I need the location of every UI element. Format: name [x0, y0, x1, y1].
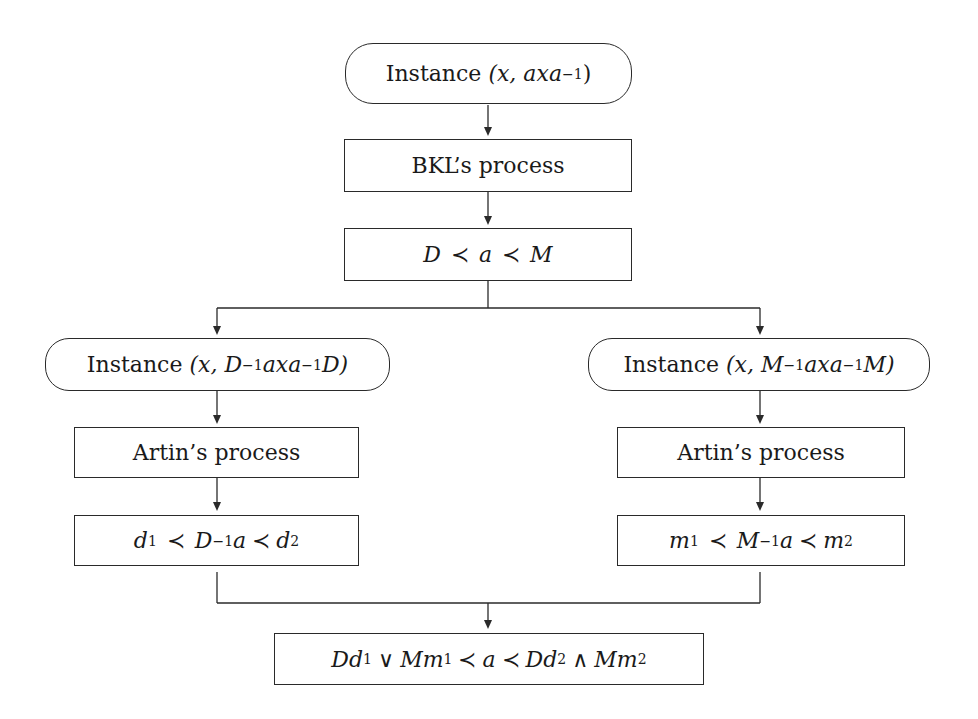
arrowhead-icon	[484, 620, 492, 629]
right-instance-open: (x, M	[726, 352, 784, 377]
arrowhead-icon	[213, 415, 221, 424]
node-bkl-result: D ≺ a ≺ M	[344, 228, 632, 281]
bkl-result-left: D	[423, 242, 441, 267]
left-result-base: D	[195, 528, 213, 553]
right-result-v2: m	[823, 528, 844, 553]
final-term1: Dd	[331, 647, 363, 672]
final-term2: Mm	[400, 647, 443, 672]
node-left-result: d1 ≺ D−1a ≺d2	[74, 515, 359, 566]
bkl-label: BKL’s process	[412, 153, 565, 178]
right-instance-mid: axa	[804, 352, 843, 377]
left-instance-open: (x, D	[189, 352, 242, 377]
arrowhead-icon	[213, 326, 221, 335]
node-right-instance: Instance (x, M−1axa−1M)	[588, 338, 930, 391]
arrowhead-icon	[756, 415, 764, 424]
precedes-symbol: ≺	[458, 647, 476, 672]
left-result-a: a	[233, 528, 246, 553]
right-result-v1: m	[669, 528, 690, 553]
left-instance-tail: D)	[322, 352, 348, 377]
node-right-artin-process: Artin’s process	[617, 427, 905, 478]
arrowhead-icon	[756, 326, 764, 335]
bkl-result-right: M	[530, 242, 553, 267]
precedes-symbol: ≺	[502, 647, 520, 672]
node-left-artin-process: Artin’s process	[74, 427, 359, 478]
node-final-result: Dd1 ∨ Mm1 ≺ a ≺ Dd2 ∧ Mm2	[274, 633, 704, 685]
join-symbol: ∨	[378, 647, 394, 672]
right-instance-prefix: Instance	[623, 352, 719, 377]
arrowhead-icon	[484, 127, 492, 136]
start-args: (x, axa	[488, 61, 562, 86]
right-artin-label: Artin’s process	[677, 440, 845, 465]
start-prefix: Instance	[386, 61, 482, 86]
bkl-result-mid: a	[479, 242, 492, 267]
arrowhead-icon	[213, 502, 221, 511]
final-a: a	[482, 647, 495, 672]
right-result-base: M	[737, 528, 760, 553]
left-artin-label: Artin’s process	[133, 440, 301, 465]
precedes-symbol: ≺	[799, 528, 817, 553]
left-instance-prefix: Instance	[87, 352, 183, 377]
precedes-symbol: ≺	[502, 242, 520, 267]
right-result-a: a	[780, 528, 793, 553]
precedes-symbol: ≺	[451, 242, 469, 267]
precedes-symbol: ≺	[167, 528, 185, 553]
precedes-symbol: ≺	[252, 528, 270, 553]
meet-symbol: ∧	[572, 647, 588, 672]
left-instance-mid: axa	[263, 352, 302, 377]
node-right-result: m1 ≺ M−1a ≺m2	[617, 515, 905, 566]
final-term4: Mm	[594, 647, 637, 672]
left-result-v2: d	[276, 528, 290, 553]
left-result-v1: d	[134, 528, 148, 553]
node-bkl-process: BKL’s process	[344, 139, 632, 192]
precedes-symbol: ≺	[709, 528, 727, 553]
right-instance-tail: M)	[863, 352, 894, 377]
arrowhead-icon	[484, 216, 492, 225]
start-close: )	[583, 61, 592, 86]
arrowhead-icon	[756, 502, 764, 511]
node-start-instance: Instance (x, axa−1)	[345, 43, 632, 104]
node-left-instance: Instance (x, D−1axa−1D)	[45, 338, 390, 391]
final-term3: Dd	[526, 647, 558, 672]
